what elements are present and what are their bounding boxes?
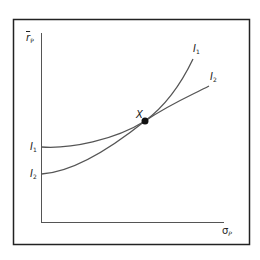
indifference-curve-i1	[42, 59, 194, 147]
curve-label-i2-subscript: 2	[213, 76, 217, 83]
curve-label-i1-subscript: 1	[196, 48, 200, 55]
intercept-label-i1-subscript: 1	[33, 146, 37, 153]
intercept-label-i1: I1	[30, 142, 37, 153]
diagram-canvas: rP σP I1 I2 I1 I2 X	[0, 0, 260, 260]
curve-label-i1: I1	[193, 44, 200, 55]
intercept-label-i2: I2	[30, 169, 37, 180]
curve-label-i2: I2	[210, 72, 217, 83]
y-axis-label-subscript: P	[30, 37, 34, 44]
point-x-label: X	[136, 110, 143, 120]
diagram-svg	[0, 0, 260, 260]
x-axis-label: σP	[222, 226, 232, 237]
intercept-label-i2-subscript: 2	[33, 173, 37, 180]
indifference-curve-i2	[42, 86, 210, 174]
y-axis-label: rP	[26, 33, 34, 44]
x-axis-label-subscript: P	[228, 230, 232, 237]
